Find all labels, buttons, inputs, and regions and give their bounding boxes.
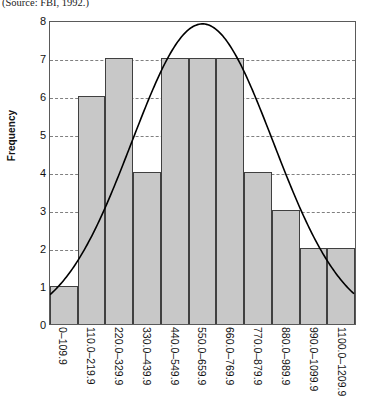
- y-tick-label: 1: [26, 281, 46, 293]
- histogram-bar: [189, 58, 217, 324]
- x-tick: 770.0–879.9: [244, 327, 272, 397]
- x-tick: 0–109.9: [49, 327, 77, 397]
- histogram-bar: [300, 248, 328, 324]
- x-tick: 110.0–219.9: [77, 327, 105, 397]
- y-tick-label: 8: [26, 15, 46, 27]
- y-tick-label: 4: [26, 167, 46, 179]
- x-tick-label: 220.0–329.9: [113, 327, 125, 385]
- histogram-chart: Frequency 012345678 0–109.9110.0–219.922…: [0, 0, 367, 398]
- x-tick-label: 990.0–1099.9: [308, 327, 320, 391]
- histogram-bar: [78, 96, 106, 324]
- x-tick-label: 1100.0–1209.9: [336, 327, 348, 396]
- x-tick: 880.0–989.9: [272, 327, 300, 397]
- x-tick: 990.0–1099.9: [300, 327, 328, 397]
- histogram-bar: [105, 58, 133, 324]
- histogram-bar: [244, 172, 272, 324]
- x-tick-label: 550.0–659.9: [196, 327, 208, 385]
- x-tick-label: 880.0–989.9: [280, 327, 292, 385]
- x-tick-label: 770.0–879.9: [252, 327, 264, 385]
- x-tick-label: 330.0–439.9: [141, 327, 153, 385]
- y-tick-label: 0: [26, 319, 46, 331]
- histogram-bar: [133, 172, 161, 324]
- histogram-bar: [50, 286, 78, 324]
- plot-area: [49, 21, 356, 325]
- x-tick-label: 0–109.9: [57, 327, 69, 365]
- bar-series: [50, 22, 355, 324]
- x-tick: 660.0–769.9: [216, 327, 244, 397]
- y-tick-label: 6: [26, 91, 46, 103]
- x-tick-label: 110.0–219.9: [85, 327, 97, 385]
- x-tick: 1100.0–1209.9: [328, 327, 356, 397]
- x-axis-ticks: 0–109.9110.0–219.9220.0–329.9330.0–439.9…: [49, 327, 356, 397]
- x-tick-label: 660.0–769.9: [224, 327, 236, 385]
- histogram-bar: [216, 58, 244, 324]
- y-axis-ticks: 012345678: [8, 0, 46, 398]
- x-tick: 440.0–549.9: [161, 327, 189, 397]
- x-tick-label: 440.0–549.9: [169, 327, 181, 385]
- x-tick: 220.0–329.9: [105, 327, 133, 397]
- x-tick: 550.0–659.9: [189, 327, 217, 397]
- y-tick-label: 3: [26, 205, 46, 217]
- histogram-bar: [161, 58, 189, 324]
- histogram-bar: [327, 248, 355, 324]
- y-tick-label: 2: [26, 243, 46, 255]
- y-tick-label: 5: [26, 129, 46, 141]
- y-tick-label: 7: [26, 53, 46, 65]
- histogram-bar: [272, 210, 300, 324]
- x-tick: 330.0–439.9: [133, 327, 161, 397]
